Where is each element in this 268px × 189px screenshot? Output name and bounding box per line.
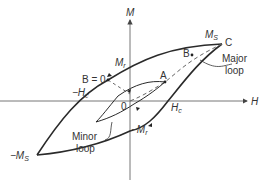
point-b-label: B — [183, 48, 190, 59]
arrow-icon — [107, 73, 112, 77]
minor-loop-label-line1: Minor — [72, 131, 98, 142]
point-b-marker — [191, 54, 194, 57]
initial-magnetization-curve — [130, 44, 222, 101]
arrow-icon — [148, 123, 152, 127]
hc-label: Hc — [171, 102, 182, 114]
m-axis-label: M — [126, 7, 135, 18]
minor-loop-leader — [105, 122, 112, 140]
point-a-label: A — [160, 70, 167, 81]
b-zero-label: B = 0 — [82, 74, 106, 85]
ms-label: MS — [205, 29, 218, 41]
b-zero-marker — [107, 79, 110, 82]
minor-loop-label-line2: loop — [76, 143, 95, 154]
mr-label: Mr — [115, 57, 126, 69]
neg-hc-label: −Hc — [72, 87, 89, 99]
b-zero-line — [108, 80, 130, 94]
major-loop-label-line2: loop — [225, 65, 244, 76]
point-c-label: C — [225, 37, 232, 48]
point-a-marker — [164, 81, 167, 84]
major-loop-lower-branch — [37, 44, 222, 155]
neg-mr-label: −Mr — [131, 124, 148, 136]
major-loop-label-line1: Major — [222, 53, 248, 64]
origin-label: 0 — [121, 101, 127, 112]
diagram-svg: M H MS C B A Major loop Mr B = 0 −Hc 0 H… — [0, 0, 268, 189]
neg-ms-label: −MS — [10, 150, 29, 162]
major-loop-upper-branch — [37, 44, 222, 155]
arrow-icon — [136, 107, 140, 111]
h-axis-label: H — [251, 96, 259, 107]
hysteresis-diagram: M H MS C B A Major loop Mr B = 0 −Hc 0 H… — [0, 0, 268, 189]
